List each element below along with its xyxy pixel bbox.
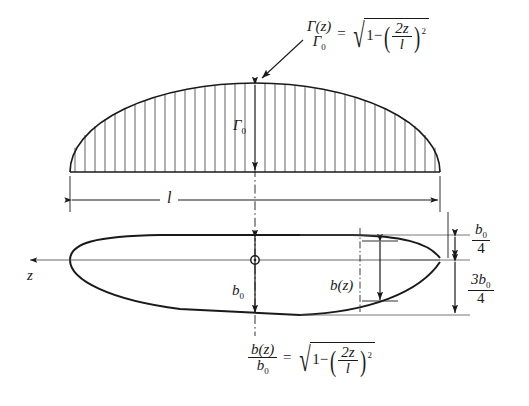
circulation-lhs-denominator-sub: 0 [321, 42, 326, 52]
z-axis-symbol: z [27, 267, 33, 283]
chord-inner-fraction: 2z l [338, 345, 357, 376]
span-label: l [160, 190, 178, 206]
chord-lhs-denominator-sub: 0 [264, 366, 269, 376]
chord-radicand: 1−( 2z l )2 [310, 342, 375, 376]
radical-symbol-circulation: √ [354, 18, 365, 52]
three-quarter-chord-denominator: 4 [468, 291, 494, 306]
gamma-zero-label: Γ0 [233, 118, 246, 136]
circulation-inner-numerator: 2z [392, 21, 411, 37]
radical-symbol-chord: √ [300, 342, 311, 376]
chord-formula: b(z) b0 = √ 1−( 2z l )2 [248, 342, 375, 376]
circulation-formula-lhs: Γ(z) Γ0 [307, 19, 331, 52]
chord-formula-lhs: b(z) b0 [248, 342, 277, 376]
b-zero-subscript: 0 [240, 291, 245, 301]
circulation-distribution-group [70, 40, 440, 172]
quarter-chord-label: b0 4 [472, 222, 490, 256]
chord-equals: = [283, 349, 291, 365]
span-symbol: l [167, 189, 171, 206]
circulation-equals: = [337, 25, 345, 41]
gamma-zero-subscript: 0 [242, 126, 247, 136]
three-quarter-chord-label: 3b0 4 [468, 272, 494, 306]
left-paren-chord: ( [330, 346, 336, 376]
quarter-chord-numerator-sub: 0 [483, 230, 488, 240]
circulation-radicand: 1−( 2z l )2 [364, 18, 429, 52]
quarter-chord-numerator: b0 [472, 222, 490, 241]
circulation-exponent: 2 [422, 26, 427, 36]
b-of-z-symbol: b(z) [330, 277, 353, 293]
right-paren-circulation: ) [413, 22, 419, 52]
circulation-lhs-denominator: Γ0 [307, 34, 331, 52]
chord-lhs-numerator: b(z) [248, 342, 277, 358]
quarter-chord-denominator: 4 [472, 241, 490, 256]
three-quarter-chord-numerator: 3b0 [468, 272, 494, 291]
three-quarter-chord-fraction: 3b0 4 [468, 272, 494, 306]
circulation-inner-fraction: 2z l [392, 21, 411, 52]
chord-radicand-lead: 1− [312, 351, 328, 367]
circulation-radicand-lead: 1− [366, 27, 382, 43]
z-axis-label: z [27, 268, 33, 283]
b-of-z-label: b(z) [330, 278, 353, 293]
chord-exponent: 2 [368, 350, 373, 360]
elliptical-wing-diagram: Γ(z) Γ0 = √ 1−( 2z l )2 Γ0 l z b0 b(z) b… [0, 0, 529, 406]
chord-lhs-denominator: b0 [248, 358, 277, 376]
three-quarter-chord-numerator-sub: 0 [486, 280, 491, 290]
formula-leader-line [262, 40, 303, 78]
left-paren-circulation: ( [384, 22, 390, 52]
circulation-inner-denominator: l [392, 37, 411, 52]
circulation-formula: Γ(z) Γ0 = √ 1−( 2z l )2 [307, 18, 429, 52]
quarter-chord-fraction: b0 4 [472, 222, 490, 256]
circulation-lhs-numerator: Γ(z) [307, 19, 331, 34]
chord-inner-numerator: 2z [338, 345, 357, 361]
b-zero-symbol: b [232, 282, 240, 298]
wing-planform-group [30, 228, 440, 315]
gamma-zero-symbol: Γ [233, 117, 242, 133]
b-zero-label: b0 [232, 283, 244, 301]
chord-inner-denominator: l [338, 361, 357, 376]
right-paren-chord: ) [359, 346, 365, 376]
